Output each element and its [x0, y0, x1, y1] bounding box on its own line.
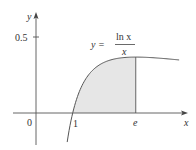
- function-label-denominator: x: [121, 46, 127, 57]
- y-axis-label: y: [26, 11, 32, 22]
- function-label-numerator: ln x: [116, 31, 131, 42]
- y-tick-label-0.5: 0.5: [15, 32, 28, 43]
- x-axis-label: x: [183, 117, 189, 128]
- origin-label: 0: [27, 117, 32, 128]
- function-label-lhs: y =: [90, 39, 105, 50]
- x-tick-label-e: e: [133, 117, 138, 128]
- figure: y 0.5 0 1 e x y = ln x x: [0, 0, 196, 150]
- x-tick-label-1: 1: [73, 118, 78, 129]
